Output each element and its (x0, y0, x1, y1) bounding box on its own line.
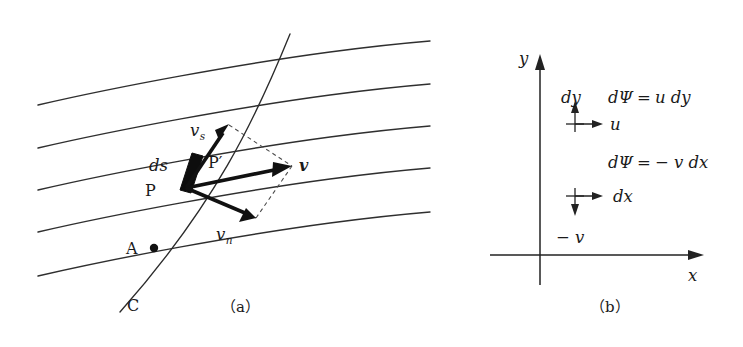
equation-dpsi-minus-v-dx: dΨ=− v dx (608, 153, 709, 172)
point-A-marker (150, 244, 158, 252)
label-point-A: A (125, 239, 138, 258)
figure-diagram: vs vn v ds P P′ A C （a） (0, 0, 743, 347)
caption-panel-b: （b） (590, 298, 630, 316)
label-curve-C: C (127, 296, 139, 315)
label-ds: ds (149, 156, 168, 175)
caption-panel-a: （a） (221, 298, 260, 316)
label-v-vector: v (299, 156, 309, 175)
equation-dpsi-u-dy: dΨ=u dy (608, 88, 691, 107)
label-minus-v: − v (556, 228, 585, 247)
label-dx: dx (613, 187, 634, 206)
figure-root: vs vn v ds P P′ A C （a） (0, 0, 743, 347)
label-point-P-prime: P′ (208, 153, 223, 172)
label-dy: dy (561, 88, 582, 107)
label-axis-y: y (518, 49, 529, 68)
label-u: u (610, 115, 621, 134)
label-axis-x: x (688, 266, 698, 285)
label-point-P: P (145, 181, 156, 200)
